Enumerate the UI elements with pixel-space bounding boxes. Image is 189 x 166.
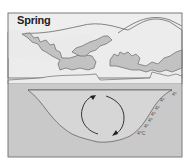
temperature-label-bottom: 4°C [137, 131, 145, 136]
diagram-title: Spring [17, 14, 51, 26]
temperature-label: 4° [144, 124, 149, 129]
temperature-label: 4° [160, 98, 165, 103]
temperature-label: 4° [172, 92, 177, 97]
